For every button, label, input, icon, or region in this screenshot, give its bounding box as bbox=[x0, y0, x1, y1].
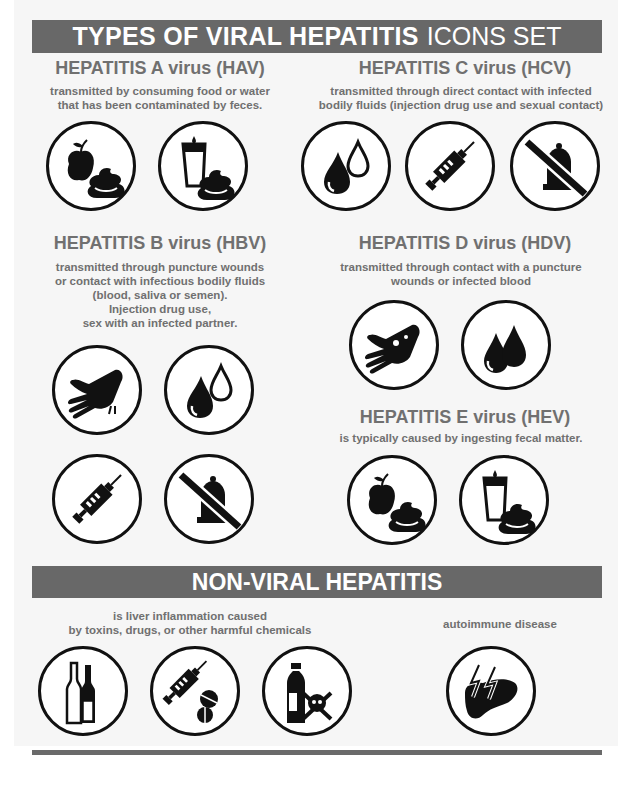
blood-drops-icon bbox=[461, 300, 551, 390]
bleeding-hand-icon bbox=[52, 345, 142, 435]
main-subtitle: ICONS SET bbox=[427, 22, 562, 50]
hbv-title: HEPATITIS B virus (HBV) bbox=[30, 233, 290, 254]
hav-description: transmitted by consuming food or water t… bbox=[20, 84, 300, 112]
bottom-divider bbox=[32, 750, 602, 755]
glass-feces-icon bbox=[158, 121, 248, 211]
hbv-description: transmitted through puncture wounds or c… bbox=[20, 260, 300, 330]
liver-lightning-icon bbox=[446, 646, 536, 736]
non-viral-banner: NON-VIRAL HEPATITIS bbox=[32, 566, 602, 598]
no-condom-icon bbox=[510, 121, 600, 211]
syringe-icon bbox=[52, 454, 142, 544]
hcv-description: transmitted through direct contact with … bbox=[296, 84, 626, 112]
apple-feces-icon bbox=[46, 121, 136, 211]
blood-drops-icon bbox=[164, 345, 254, 435]
hev-title: HEPATITIS E virus (HEV) bbox=[320, 407, 610, 428]
hdv-title: HEPATITIS D virus (HDV) bbox=[320, 233, 610, 254]
hdv-description: transmitted through contact with a punct… bbox=[306, 260, 616, 288]
main-title: TYPES OF VIRAL HEPATITIS bbox=[73, 22, 419, 50]
hav-title: HEPATITIS A virus (HAV) bbox=[30, 58, 290, 79]
wounded-hand-icon bbox=[349, 300, 439, 390]
blood-drops-icon bbox=[301, 121, 391, 211]
syringe-icon bbox=[405, 121, 495, 211]
hcv-title: HEPATITIS C virus (HCV) bbox=[320, 58, 610, 79]
apple-feces-icon bbox=[347, 455, 437, 545]
syringe-pills-icon bbox=[150, 646, 240, 736]
poison-bottle-icon bbox=[262, 646, 352, 736]
hev-description: is typically caused by ingesting fecal m… bbox=[306, 431, 616, 445]
glass-feces-icon bbox=[459, 455, 549, 545]
main-title-banner: TYPES OF VIRAL HEPATITISICONS SET bbox=[32, 20, 602, 53]
autoimmune-description: autoimmune disease bbox=[400, 617, 600, 631]
no-condom-icon bbox=[164, 454, 254, 544]
toxins-description: is liver inflammation caused by toxins, … bbox=[40, 609, 340, 637]
alcohol-bottles-icon bbox=[38, 646, 128, 736]
